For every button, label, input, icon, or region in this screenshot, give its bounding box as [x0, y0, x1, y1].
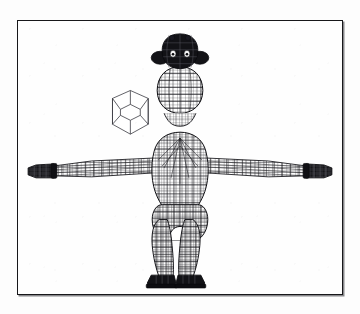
wireframe-scene [18, 21, 342, 294]
right-arm [206, 157, 306, 182]
head [151, 33, 209, 69]
figure-root [0, 0, 360, 314]
plate-frame [17, 20, 343, 295]
right-hand [303, 163, 332, 178]
render-canvas [18, 21, 342, 294]
left-arm [54, 157, 154, 182]
right-foot [175, 275, 206, 288]
torso [148, 126, 212, 217]
left-foot [146, 275, 177, 288]
plate-title [0, 0, 1, 1]
neck [153, 64, 207, 127]
dodecahedron-primitive [112, 90, 148, 134]
left-hand [28, 163, 57, 178]
plate-caption [0, 0, 1, 1]
